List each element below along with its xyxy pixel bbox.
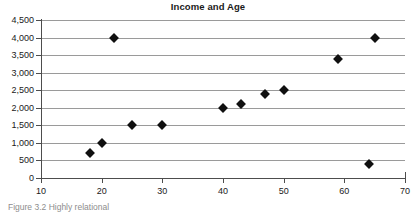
x-tick-mark xyxy=(284,178,285,183)
x-tick-mark xyxy=(102,178,103,183)
x-tick-mark xyxy=(41,178,42,183)
y-tick-mark xyxy=(36,90,41,91)
y-tick-mark xyxy=(36,108,41,109)
y-tick-label: 3,500 xyxy=(11,50,34,60)
gridline xyxy=(41,73,405,74)
y-tick-label: 0 xyxy=(29,173,34,183)
y-tick-mark xyxy=(36,143,41,144)
data-point xyxy=(157,120,167,130)
gridline xyxy=(41,38,405,39)
y-tick-mark xyxy=(36,38,41,39)
figure-caption-text: Figure 3.2 Highly relational xyxy=(8,203,109,212)
gridline xyxy=(41,90,405,91)
y-tick-label: 500 xyxy=(19,155,34,165)
y-tick-label: 4,000 xyxy=(11,33,34,43)
y-tick-mark xyxy=(36,73,41,74)
y-tick-label: 4,500 xyxy=(11,15,34,25)
y-tick-mark xyxy=(36,55,41,56)
x-tick-mark xyxy=(162,178,163,183)
chart-title: Income and Age xyxy=(0,1,416,12)
data-point xyxy=(279,85,289,95)
y-tick-label: 1,000 xyxy=(11,138,34,148)
x-tick-label: 60 xyxy=(339,186,349,196)
y-tick-label: 1,500 xyxy=(11,120,34,130)
data-point xyxy=(109,33,119,43)
figure-caption: Figure 3.2 Highly relational xyxy=(8,203,268,212)
x-tick-mark xyxy=(405,178,406,183)
x-tick-label: 10 xyxy=(36,186,46,196)
gridline xyxy=(41,20,405,21)
plot-area xyxy=(41,20,405,178)
gridline xyxy=(41,125,405,126)
gridline xyxy=(41,143,405,144)
y-tick-mark xyxy=(36,20,41,21)
data-point xyxy=(218,103,228,113)
x-tick-mark xyxy=(223,178,224,183)
y-tick-mark xyxy=(36,125,41,126)
y-tick-label: 3,000 xyxy=(11,68,34,78)
y-tick-mark xyxy=(36,160,41,161)
data-point xyxy=(370,33,380,43)
data-point xyxy=(85,148,95,158)
x-tick-label: 50 xyxy=(279,186,289,196)
x-tick-label: 30 xyxy=(157,186,167,196)
x-tick-mark xyxy=(344,178,345,183)
y-tick-label: 2,000 xyxy=(11,103,34,113)
gridline xyxy=(41,160,405,161)
gridline xyxy=(41,55,405,56)
data-point xyxy=(97,138,107,148)
x-tick-label: 20 xyxy=(97,186,107,196)
data-point xyxy=(127,120,137,130)
x-tick-label: 70 xyxy=(400,186,410,196)
x-tick-label: 40 xyxy=(218,186,228,196)
y-tick-label: 2,500 xyxy=(11,85,34,95)
y-axis-line xyxy=(41,19,42,179)
chart-figure: Income and Age 4,5004,0003,5003,0002,500… xyxy=(0,0,416,212)
